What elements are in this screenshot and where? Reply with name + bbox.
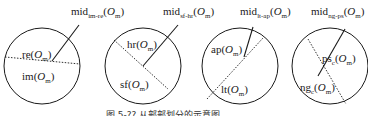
figure-caption: 图 5-?? 从部部划分的示意图 [106, 109, 220, 116]
panel-2: midsf-hr(Om) hr(Om) sf(Om) [105, 5, 214, 104]
mid-label-3: midlt-ap(Om) [240, 5, 291, 20]
mid-pointer-line-3 [244, 27, 253, 57]
region-label-lt: lt(Om) [221, 83, 248, 98]
panel-4: midng-ps(Om) psc(Om) ngc(Om) [292, 5, 368, 104]
region-label-ap: ap(Om) [211, 43, 242, 58]
region-label-re: re(Om) [22, 48, 52, 63]
region-label-ps: psc(Om) [322, 52, 356, 67]
mid-label-1: midim-re(Om) [71, 5, 124, 20]
region-label-ng: ngc(Om) [300, 81, 335, 96]
diagram-canvas: midim-re(Om) re(Om) im(Om) midsf-hr(Om) … [0, 0, 368, 116]
region-label-sf: sf(Om) [120, 78, 149, 93]
mid-label-4: midng-ps(Om) [311, 5, 365, 20]
panel-3: midlt-ap(Om) ap(Om) lt(Om) [202, 5, 291, 104]
region-label-im: im(Om) [22, 70, 55, 85]
mid-label-2: midsf-hr(Om) [163, 5, 214, 20]
region-label-hr: hr(Om) [127, 38, 157, 53]
